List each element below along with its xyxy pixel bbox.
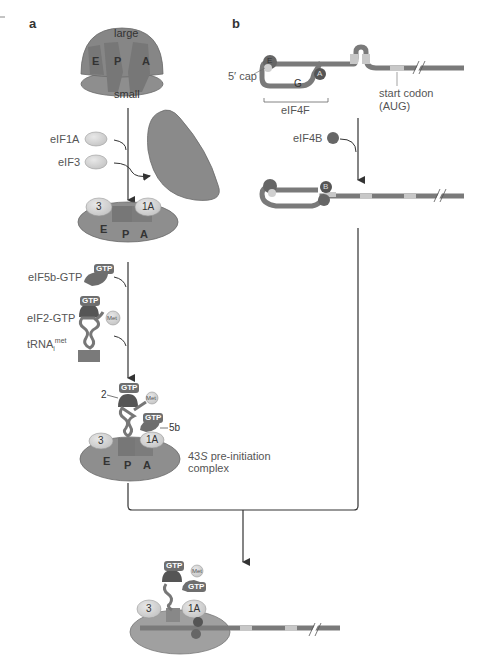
eif4f-bracket [264,98,328,102]
eif5b-icon [84,272,108,286]
start-codon-aug-label: (AUG) [379,100,410,112]
eif4b-letter: B [323,182,328,191]
site-e-bound: E [100,223,107,235]
trna-sub: i [53,345,55,352]
label-43: 43 [188,450,200,462]
small-subunit-label: small [114,88,140,100]
label-s: S [200,450,207,462]
panel-label-b: b [232,16,240,31]
arrow-eif5b-in [114,277,126,287]
site-e-complex: E [103,455,110,467]
trna-sup: met [55,337,67,344]
complex-48s [130,565,340,654]
gtp-chip-final-1: GTP [164,561,184,571]
gtp-chip-eif2: GTP [80,296,100,306]
site-a: A [142,55,150,67]
eif4a-letter: A [317,69,322,78]
arrow-eif1a-in [114,140,126,150]
arrow-eif3-out [114,163,150,177]
cap-label: 5′ cap [228,70,257,82]
large-subunit-label: large [114,27,138,39]
site-p-complex: P [124,459,131,471]
eif2-number-label: 2 [101,389,107,400]
complex-43s-label: 43S pre-initiationcomplex [188,450,271,474]
trna-label: tRNAimet [27,337,67,353]
met-label-complex: Met [146,395,156,401]
eif5b-number-label: 5b [169,422,180,433]
eif3-label: eIF3 [58,156,80,168]
gtp-chip-complex-eif5b: GTP [143,413,163,423]
arrow-eif4b-in [340,139,356,152]
arrow-trna-in [114,336,126,346]
eif3-icon [85,155,107,169]
eif1a-bound-label: 1A [142,201,154,212]
site-e: E [92,55,99,67]
start-codon-label: start codon [379,87,433,99]
site-a-complex: A [143,459,151,471]
label-preinit: pre-initiation [208,450,271,462]
label-complex: complex [188,462,229,474]
eif2-gtp-label: eIF2-GTP [27,312,75,324]
mrna-eif4f [262,47,464,86]
eif1a-icon [85,132,107,146]
eif3-complex-label: 3 [98,435,104,446]
eif4g-letter: G [294,78,302,89]
met-label: Met [107,315,117,321]
eif4b-label: eIF4B [293,132,322,144]
site-p-bound: P [122,228,129,240]
site-a-bound: A [140,228,148,240]
eif4f-label: eIF4F [281,104,310,116]
eif2-trna-icon [78,304,120,362]
met-label-final: Met [192,568,202,574]
gtp-chip-final-2: GTP [186,582,206,592]
eif4b-icon [327,132,339,144]
eif5b-gtp-label: eIF5b-GTP [28,271,82,283]
mrna-eif4f-eif4b [262,179,464,206]
eif3-bound-label: 3 [96,201,102,212]
eif1a-complex-label: 1A [146,434,158,445]
eif3-final-label: 3 [146,603,152,614]
large-subunit-free [148,110,220,200]
trna-text: tRNA [27,338,53,350]
eif1a-final-label: 1A [188,603,200,614]
eif4e-letter: E [267,56,272,65]
site-p: P [114,55,121,67]
gtp-chip-eif5b: GTP [94,264,114,274]
eif1a-label: eIF1A [50,133,79,145]
panel-label-a: a [29,16,36,31]
gtp-chip-complex-eif2: GTP [119,383,139,393]
